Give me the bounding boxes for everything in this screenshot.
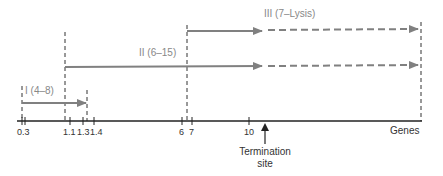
termination-label-line1: Termination (235, 146, 295, 158)
transcript-2-dashed (268, 65, 418, 66)
transcript-2-arrow (65, 66, 262, 67)
tick-label: 1.4 (90, 127, 103, 137)
tick-label: 0.3 (17, 127, 30, 137)
tick-label: 7 (189, 127, 194, 137)
transcript-3-label: III (7–Lysis) (264, 8, 315, 19)
tick-label: 1.1 (63, 127, 76, 137)
axis-label-genes: Genes (390, 125, 419, 136)
tick-label: 1.3 (77, 127, 90, 137)
tick-label: 10 (244, 127, 254, 137)
tick-label: 6 (179, 127, 184, 137)
termination-label-line2: site (235, 158, 295, 170)
diagram-canvas (0, 0, 443, 176)
transcript-3-dashed (268, 29, 418, 30)
termination-site-label: Termination site (235, 146, 295, 170)
termination-arrowhead-icon (261, 123, 269, 131)
guide-lines (22, 22, 421, 121)
transcript-2-label: II (6–15) (139, 47, 176, 58)
transcript-1-label: I (4–8) (25, 85, 54, 96)
